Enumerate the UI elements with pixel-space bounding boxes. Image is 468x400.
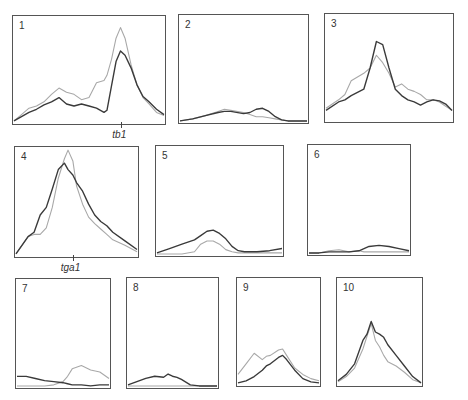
light-series-line (157, 241, 282, 254)
chart-panel-8: 8 (126, 277, 219, 389)
chart-panel-7: 7 (15, 278, 111, 389)
gene-marker-label: tb1 (112, 129, 126, 140)
panel-number-label: 4 (21, 151, 27, 162)
dark-series-line (16, 163, 137, 254)
gene-marker-tick (121, 122, 122, 128)
dark-series-line (157, 230, 282, 253)
panel-number-label: 6 (314, 149, 320, 160)
chart-panel-10: 10 (336, 277, 423, 387)
chart-panel-5: 5 (155, 145, 284, 257)
chart-panel-4: 4 (14, 146, 139, 258)
chart-panel-2: 2 (178, 14, 309, 124)
gene-marker-tick (73, 255, 74, 261)
panel-number-label: 5 (162, 150, 168, 161)
chart-panel-3: 3 (324, 13, 454, 123)
light-series-line (326, 55, 452, 110)
chart-panel-6: 6 (307, 144, 411, 256)
dark-series-line (326, 41, 452, 110)
dark-series-line (14, 51, 164, 121)
chart-panel-1: 1 (12, 15, 166, 125)
panel-number-label: 9 (243, 282, 249, 293)
dark-series-line (180, 108, 307, 121)
light-series-line (16, 150, 137, 254)
dark-series-line (338, 321, 421, 382)
light-series-line (338, 324, 421, 383)
panel-number-label: 8 (133, 282, 139, 293)
panel-number-label: 10 (343, 282, 354, 293)
light-series-line (14, 28, 164, 121)
gene-marker-label: tga1 (61, 262, 80, 273)
dark-series-line (128, 374, 217, 386)
panel-number-label: 7 (22, 283, 28, 294)
panel-number-label: 2 (185, 19, 191, 30)
panel-number-label: 1 (19, 20, 25, 31)
chart-panel-9: 9 (236, 277, 321, 387)
dark-series-line (238, 355, 319, 382)
panel-number-label: 3 (331, 18, 337, 29)
light-series-line (238, 349, 319, 381)
light-series-line (180, 109, 307, 121)
